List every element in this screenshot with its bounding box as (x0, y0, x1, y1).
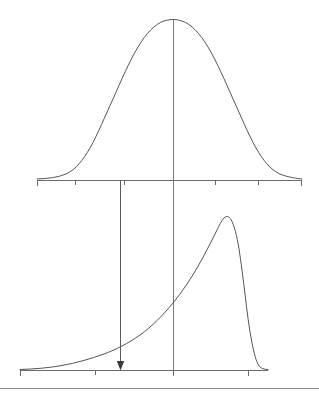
projection-arrow-head (117, 361, 124, 371)
upper-axis-ticks (38, 181, 302, 187)
lower-panel (20, 216, 268, 376)
distribution-figure-svg (0, 0, 319, 397)
figure-container (0, 0, 319, 397)
lower-skewed-curve (20, 216, 268, 369)
upper-panel (37, 20, 302, 187)
upper-bell-curve (37, 20, 302, 180)
lower-axis-ticks (21, 371, 249, 377)
projection-arrow (117, 181, 124, 371)
